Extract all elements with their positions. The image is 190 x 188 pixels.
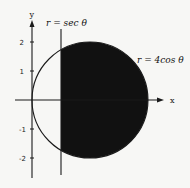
y-axis-arrow-icon (30, 20, 35, 27)
svg-text:-1: -1 (19, 126, 26, 134)
label-4cos-theta: r = 4cos θ (137, 55, 184, 65)
y-axis-label: y (29, 10, 35, 19)
polar-diagram: x y 2 1 -1 -2 r = sec θ r = 4cos θ (0, 0, 190, 188)
svg-text:-2: -2 (19, 155, 26, 163)
x-axis-arrow-icon (157, 98, 164, 103)
svg-text:2: 2 (20, 39, 24, 47)
label-sec-theta: r = sec θ (46, 18, 87, 28)
svg-text:1: 1 (20, 68, 24, 76)
x-axis-label: x (170, 96, 175, 105)
